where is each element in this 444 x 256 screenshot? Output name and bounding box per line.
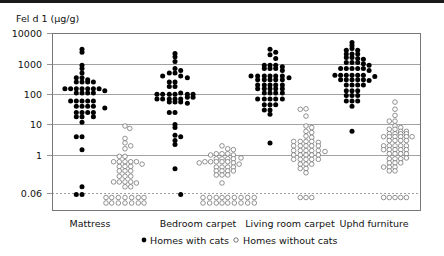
point-without-cats [201, 195, 206, 200]
point-with-cats [255, 86, 260, 91]
point-without-cats [142, 195, 147, 200]
point-with-cats [91, 104, 96, 109]
point-with-cats [173, 59, 178, 64]
point-with-cats [255, 96, 260, 101]
point-without-cats [237, 162, 242, 167]
point-without-cats [129, 201, 134, 206]
point-with-cats [268, 140, 273, 145]
point-with-cats [167, 92, 172, 97]
point-with-cats [273, 56, 278, 61]
point-without-cats [291, 139, 296, 144]
point-with-cats [262, 90, 267, 95]
point-with-cats [80, 98, 85, 103]
point-without-cats [117, 174, 122, 179]
point-with-cats [160, 92, 165, 97]
y-tick-label: 100 [24, 89, 42, 100]
category-label: Living room carpet [245, 218, 335, 229]
point-without-cats [245, 195, 250, 200]
point-without-cats [298, 139, 303, 144]
point-without-cats [393, 195, 398, 200]
point-with-cats [167, 84, 172, 89]
point-with-cats [74, 110, 79, 115]
point-without-cats [123, 146, 128, 151]
y-tick-label: 1 [36, 150, 42, 161]
point-without-cats [111, 180, 116, 185]
category-label: Bedroom carpet [160, 218, 237, 229]
point-without-cats [304, 166, 309, 171]
point-without-cats [140, 162, 145, 167]
point-with-cats [268, 77, 273, 82]
point-with-cats [262, 66, 267, 71]
point-with-cats [361, 77, 366, 82]
point-with-cats [355, 66, 360, 71]
point-without-cats [410, 134, 415, 139]
legend: Homes with cats Homes without cats [142, 235, 338, 246]
point-with-cats [74, 98, 79, 103]
point-with-cats [350, 66, 355, 71]
point-with-cats [173, 125, 178, 130]
point-with-cats [280, 96, 285, 101]
point-with-cats [85, 90, 90, 95]
point-without-cats [316, 144, 321, 149]
point-with-cats [350, 93, 355, 98]
point-with-cats [173, 110, 178, 115]
point-with-cats [262, 77, 267, 82]
category-label: Uphd furniture [339, 218, 408, 229]
point-without-cats [123, 195, 128, 200]
point-with-cats [344, 66, 349, 71]
point-with-cats [80, 90, 85, 95]
point-without-cats [393, 119, 398, 124]
point-with-cats [74, 80, 79, 85]
point-with-cats [160, 73, 165, 78]
dot-plot: 1000010001001010.06 MattressBedroom carp… [0, 0, 444, 256]
category-labels: MattressBedroom carpetLiving room carpet… [70, 218, 409, 229]
point-without-cats [111, 159, 116, 164]
point-without-cats [232, 201, 237, 206]
point-without-cats [231, 169, 236, 174]
point-without-cats [304, 157, 309, 162]
point-with-cats [344, 55, 349, 60]
point-without-cats [393, 127, 398, 132]
point-with-cats [178, 90, 183, 95]
point-with-cats [74, 134, 79, 139]
point-with-cats [62, 86, 67, 91]
point-without-cats [309, 148, 314, 153]
point-with-cats [268, 112, 273, 117]
point-without-cats [225, 201, 230, 206]
point-with-cats [80, 110, 85, 115]
point-with-cats [350, 60, 355, 65]
point-with-cats [85, 110, 90, 115]
point-without-cats [298, 195, 303, 200]
point-without-cats [220, 173, 225, 178]
point-with-cats [280, 90, 285, 95]
point-with-cats [367, 68, 372, 73]
point-without-cats [128, 184, 133, 189]
point-with-cats [344, 93, 349, 98]
point-without-cats [309, 162, 314, 167]
point-without-cats [316, 157, 321, 162]
point-without-cats [298, 148, 303, 153]
point-with-cats [91, 114, 96, 119]
point-without-cats [117, 180, 122, 185]
point-without-cats [128, 144, 133, 149]
point-with-cats [185, 95, 190, 100]
point-without-cats [398, 161, 403, 166]
point-without-cats [298, 107, 303, 112]
point-without-cats [117, 159, 122, 164]
point-with-cats [80, 147, 85, 152]
y-tick-labels: 1000010001001010.06 [12, 28, 42, 199]
point-without-cats [220, 201, 225, 206]
y-tick-label: 10000 [12, 28, 42, 39]
point-without-cats [304, 153, 309, 158]
point-with-cats [355, 98, 360, 103]
point-without-cats [398, 138, 403, 143]
point-without-cats [109, 201, 114, 206]
point-with-cats [350, 104, 355, 109]
point-with-cats [74, 75, 79, 80]
point-with-cats [361, 66, 366, 71]
point-with-cats [344, 98, 349, 103]
point-without-cats [207, 195, 212, 200]
point-without-cats [291, 157, 296, 162]
point-without-cats [117, 154, 122, 159]
category-label: Mattress [70, 218, 111, 229]
